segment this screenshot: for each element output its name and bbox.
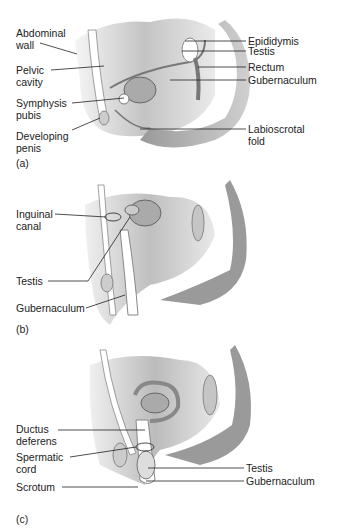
panel-caption-c: (c) (16, 513, 28, 525)
panel-caption-b: (b) (16, 323, 29, 335)
label-developing-penis: Developingpenis (16, 130, 69, 154)
label-gubernaculum: Gubernaculum (246, 475, 315, 487)
label-ductus-deferens: Ductusdeferens (16, 423, 57, 447)
label-inguinal-canal: Inguinalcanal (16, 208, 53, 232)
label-gubernaculum: Gubernaculum (248, 74, 317, 86)
label-symphysis-pubis: Symphysispubis (16, 97, 67, 121)
label-scrotum: Scrotum (16, 481, 55, 493)
label-labioscrotal-fold: Labioscrotalfold (248, 123, 305, 147)
label-testis: Testis (16, 275, 43, 287)
label-pelvic-cavity: Pelviccavity (16, 64, 44, 88)
panel-c: Ductusdeferens Spermaticcord Scrotum Tes… (0, 335, 340, 530)
panel-a: Abdominalwall Pelviccavity Symphysispubi… (0, 0, 340, 175)
label-spermatic-cord: Spermaticcord (16, 451, 63, 475)
label-abdominal-wall: Abdominalwall (16, 27, 66, 51)
panel-caption-a: (a) (16, 157, 29, 169)
label-gubernaculum: Gubernaculum (16, 302, 85, 314)
label-rectum: Rectum (248, 61, 284, 73)
label-testis: Testis (246, 462, 273, 474)
panel-b: Inguinalcanal Testis Gubernaculum (b) (0, 175, 340, 335)
label-testis: Testis (248, 45, 275, 57)
